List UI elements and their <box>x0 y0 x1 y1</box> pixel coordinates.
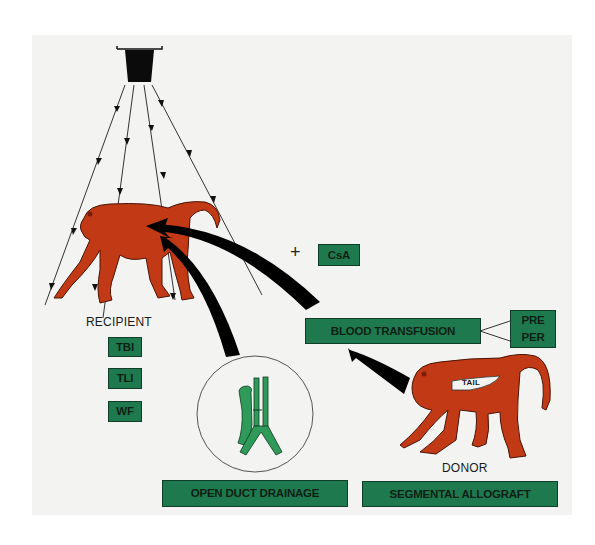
radiation-source-icon <box>117 46 162 82</box>
recipient-monkey <box>54 202 220 303</box>
transfusion-timing-box: PRE PER <box>510 310 556 348</box>
segmental-allograft-box: SEGMENTAL ALLOGRAFT <box>362 481 558 507</box>
timing-connector <box>480 321 510 341</box>
recipient-label: RECIPIENT <box>86 315 152 329</box>
plus-sign: + <box>290 242 301 263</box>
diagram-canvas <box>0 0 595 545</box>
open-duct-drainage-box: OPEN DUCT DRAINAGE <box>162 480 348 507</box>
csa-box: CsA <box>318 244 360 266</box>
treatment-tli: TLI <box>108 368 142 389</box>
duct-drainage-illustration <box>197 356 313 472</box>
treatment-wf: WF <box>108 401 142 422</box>
donor-to-transfusion-arrow <box>348 348 410 394</box>
timing-pre: PRE <box>521 312 544 329</box>
timing-per: PER <box>521 329 544 346</box>
treatment-tbi: TBI <box>108 337 142 357</box>
donor-monkey <box>400 354 550 458</box>
blood-transfusion-box: BLOOD TRANSFUSION <box>305 318 481 344</box>
donor-label: DONOR <box>442 461 488 475</box>
tail-label: TAIL <box>462 378 480 387</box>
